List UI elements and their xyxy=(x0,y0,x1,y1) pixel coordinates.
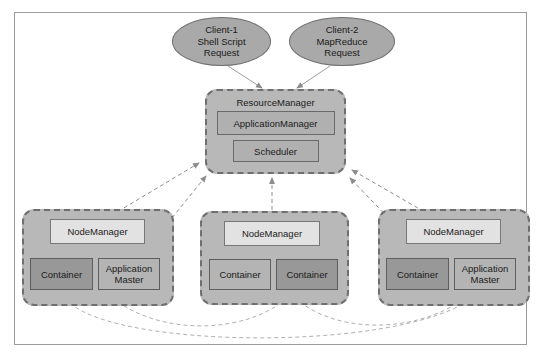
node-manager-3-am-line-1: Application xyxy=(462,263,508,274)
client-2-line-1: Client-2 xyxy=(326,24,359,36)
resourcemanager-group[interactable]: ResourceManager ApplicationManager Sched… xyxy=(205,89,346,174)
node-manager-1-application-master[interactable]: Application Master xyxy=(98,258,160,290)
node-manager-2-container-a-label: Container xyxy=(219,269,260,280)
node-manager-1-label[interactable]: NodeManager xyxy=(50,219,145,244)
node-manager-2-container-b-label: Container xyxy=(286,269,327,280)
client-2-node[interactable]: Client-2 MapReduce Request xyxy=(289,17,395,66)
client-1-node[interactable]: Client-1 Shell Script Request xyxy=(172,17,271,66)
node-manager-1-am-line-1: Application xyxy=(106,263,152,274)
client-1-line-1: Client-1 xyxy=(205,24,238,36)
node-manager-3-am-line-2: Master xyxy=(470,274,499,285)
node-manager-2-container-b[interactable]: Container xyxy=(276,259,338,290)
node-manager-1-container[interactable]: Container xyxy=(30,258,93,290)
client-2-line-2: MapReduce xyxy=(316,36,367,48)
node-manager-3-container-label: Container xyxy=(397,269,438,280)
client-2-line-3: Request xyxy=(324,47,359,59)
applicationmanager-box[interactable]: ApplicationManager xyxy=(217,111,335,135)
node-manager-3-application-master[interactable]: Application Master xyxy=(454,258,516,290)
node-manager-2-container-a[interactable]: Container xyxy=(209,259,271,290)
client-1-line-3: Request xyxy=(204,47,239,59)
resourcemanager-title: ResourceManager xyxy=(236,95,314,111)
scheduler-box[interactable]: Scheduler xyxy=(233,140,319,162)
diagram-canvas: Client-1 Shell Script Request Client-2 M… xyxy=(0,0,541,364)
node-manager-3-container[interactable]: Container xyxy=(386,258,449,290)
node-manager-1-container-label: Container xyxy=(41,269,82,280)
node-manager-3-label[interactable]: NodeManager xyxy=(406,219,501,244)
node-manager-2-label[interactable]: NodeManager xyxy=(224,221,320,246)
client-1-line-2: Shell Script xyxy=(197,36,245,48)
node-manager-1-am-line-2: Master xyxy=(114,274,143,285)
